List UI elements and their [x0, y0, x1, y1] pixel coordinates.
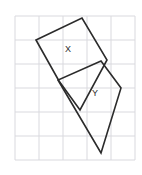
shape-y: [58, 61, 121, 153]
shapes-group: [36, 18, 121, 153]
geometry-figure: XY: [0, 0, 142, 175]
label-y: Y: [92, 88, 98, 98]
shape-labels: XY: [65, 44, 98, 98]
label-x: X: [65, 44, 71, 54]
figure-canvas: XY: [0, 0, 142, 175]
grid-lines: [15, 16, 135, 160]
